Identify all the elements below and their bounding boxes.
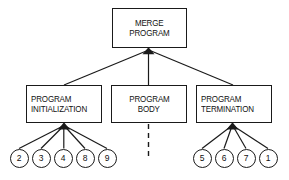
leaf-node-6[interactable]: 6 — [215, 149, 234, 168]
node-merge-program-line-1: MERGE — [135, 18, 164, 29]
node-program-termination[interactable]: PROGRAM TERMINATION — [196, 85, 272, 123]
leaf-node-1[interactable]: 1 — [259, 149, 278, 168]
connector-leaf1-to-term — [234, 126, 269, 149]
node-program-body[interactable]: PROGRAM BODY — [111, 85, 187, 123]
node-program-body-line-1: PROGRAM — [129, 94, 169, 105]
node-program-termination-line-1: PROGRAM — [201, 94, 265, 105]
node-program-body-line-2: BODY — [138, 104, 160, 115]
leaf-node-2-label: 2 — [17, 154, 22, 163]
leaf-node-3[interactable]: 3 — [32, 149, 51, 168]
leaf-node-8[interactable]: 8 — [76, 149, 95, 168]
arrowhead-into-termination — [227, 122, 239, 129]
node-program-initialization[interactable]: PROGRAM INITIALIZATION — [26, 85, 102, 123]
arrowhead-into-root — [143, 47, 155, 54]
connector-leaf2-to-init — [19, 126, 63, 149]
arrowhead-into-initialization — [58, 122, 70, 129]
connector-term-to-root — [150, 51, 233, 86]
leaf-node-9[interactable]: 9 — [98, 149, 117, 168]
leaf-node-3-label: 3 — [39, 154, 44, 163]
leaf-node-4[interactable]: 4 — [54, 149, 73, 168]
connector-group-termination — [202, 122, 268, 148]
leaf-node-8-label: 8 — [83, 154, 88, 163]
node-program-initialization-line-2: INITIALIZATION — [31, 104, 95, 115]
leaf-node-7-label: 7 — [244, 154, 249, 163]
leaf-node-1-label: 1 — [266, 154, 271, 163]
connector-leaf9-to-init — [65, 126, 107, 149]
leaf-node-4-label: 4 — [61, 154, 66, 163]
leaf-node-5-label: 5 — [200, 154, 205, 163]
connector-group-root — [64, 47, 233, 85]
leaf-node-6-label: 6 — [222, 154, 227, 163]
node-merge-program-line-2: PROGRAM — [129, 28, 169, 39]
leaf-node-2[interactable]: 2 — [10, 149, 29, 168]
connector-init-to-root — [64, 51, 148, 86]
structure-chart-diagram: MERGE PROGRAM PROGRAM INITIALIZATION PRO… — [0, 0, 289, 180]
leaf-node-9-label: 9 — [105, 154, 110, 163]
leaf-node-7[interactable]: 7 — [237, 149, 256, 168]
node-merge-program[interactable]: MERGE PROGRAM — [112, 8, 187, 48]
connector-group-initialization — [19, 122, 107, 148]
node-program-initialization-line-1: PROGRAM — [31, 94, 95, 105]
leaf-node-5[interactable]: 5 — [193, 149, 212, 168]
node-program-termination-line-2: TERMINATION — [201, 104, 265, 115]
